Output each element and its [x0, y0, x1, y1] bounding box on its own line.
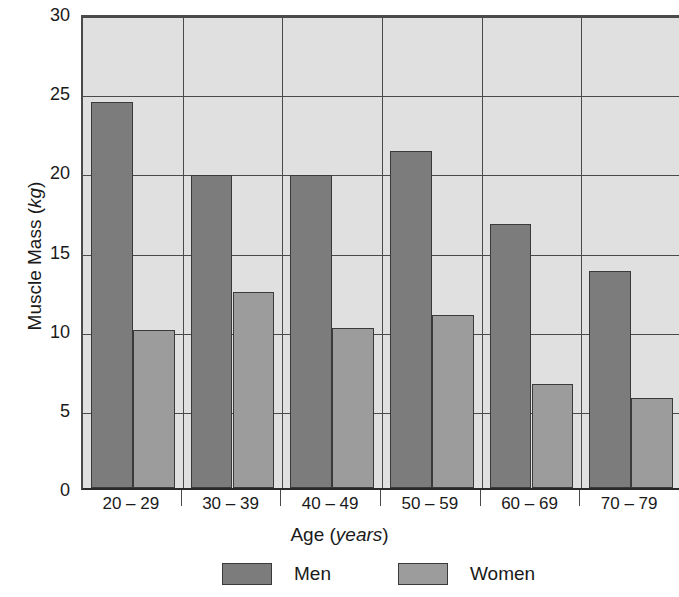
x-axis-category-label: 60 – 69: [501, 494, 558, 514]
bar-men-2: [290, 175, 332, 489]
y-axis-tick-label: 10: [24, 323, 70, 341]
bar-men-5: [589, 271, 631, 488]
chart-legend: MenWomen: [0, 563, 679, 593]
gridline-vertical: [282, 17, 283, 488]
y-axis-tick-label: 20: [24, 164, 70, 182]
plot-inner: [83, 17, 679, 488]
y-axis-tick-label: 30: [24, 6, 70, 24]
x-axis-title-main: Age (: [290, 524, 335, 545]
x-axis-category-label: 40 – 49: [302, 494, 359, 514]
gridline-vertical: [581, 17, 582, 488]
legend-swatch-women: [398, 563, 448, 585]
gridline-vertical: [482, 17, 483, 488]
bar-women-5: [631, 398, 673, 488]
bar-women-1: [233, 292, 275, 488]
y-axis-tick-label: 25: [24, 85, 70, 103]
bar-women-3: [432, 315, 474, 488]
bar-men-1: [191, 175, 233, 489]
x-axis-title: Age (years): [0, 524, 679, 546]
bar-men-0: [91, 102, 133, 488]
x-axis-category-label: 70 – 79: [601, 494, 658, 514]
x-axis-title-tail: ): [382, 524, 388, 545]
plot-area: [81, 15, 679, 490]
x-axis-category-label: 50 – 59: [401, 494, 458, 514]
bar-women-2: [332, 328, 374, 488]
legend-label-women: Women: [470, 563, 535, 585]
gridline-horizontal: [83, 96, 679, 97]
y-axis-tick-label: 0: [24, 481, 70, 499]
x-axis-category-label: 30 – 39: [202, 494, 259, 514]
y-axis-tick-labels: 051015202530: [24, 0, 70, 597]
gridline-vertical: [183, 17, 184, 488]
legend-item-women: Women: [398, 563, 535, 585]
bar-chart: Muscle Mass (kg) 051015202530 20 – 2930 …: [0, 0, 679, 597]
x-axis-category-label: 20 – 29: [102, 494, 159, 514]
x-axis-tick-labels: 20 – 2930 – 3940 – 4950 – 5960 – 6970 – …: [81, 494, 679, 520]
bar-men-4: [490, 224, 532, 488]
gridline-vertical: [382, 17, 383, 488]
legend-swatch-men: [222, 563, 272, 585]
y-axis-tick-label: 15: [24, 244, 70, 262]
bar-men-3: [390, 151, 432, 488]
x-axis-title-unit: years: [336, 524, 382, 545]
bar-women-4: [532, 384, 574, 489]
gridline-horizontal: [83, 17, 679, 18]
legend-label-men: Men: [294, 563, 331, 585]
bar-women-0: [133, 330, 175, 488]
legend-item-men: Men: [222, 563, 331, 585]
gridline-horizontal: [83, 255, 679, 256]
y-axis-tick-label: 5: [24, 402, 70, 420]
gridline-horizontal: [83, 175, 679, 176]
